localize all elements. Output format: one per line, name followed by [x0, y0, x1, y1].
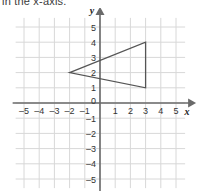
- worksheet-figure: in the x-axis. –5–4–3–2–11234554321–1–2–…: [0, 0, 205, 195]
- y-tick-label: 3: [91, 53, 96, 63]
- x-tick-label: –2: [65, 106, 75, 116]
- x-tick-label: 3: [143, 106, 148, 116]
- coordinate-plane-svg: –5–4–3–2–11234554321–1–2–3–4–50 xy: [0, 8, 205, 195]
- x-tick-label: –3: [49, 106, 59, 116]
- x-tick-label: 4: [158, 106, 163, 116]
- x-tick-label: –5: [19, 106, 29, 116]
- y-tick-label: 4: [91, 38, 96, 48]
- plot-background: [0, 8, 205, 195]
- x-tick-label: 1: [113, 106, 118, 116]
- y-axis-label: y: [89, 8, 95, 16]
- y-tick-label: 2: [91, 68, 96, 78]
- x-tick-label: 5: [173, 106, 178, 116]
- x-tick-label: –4: [34, 106, 44, 116]
- y-tick-label: –5: [86, 175, 96, 185]
- y-tick-label: –2: [86, 129, 96, 139]
- y-tick-label: –4: [86, 159, 96, 169]
- y-tick-label: –1: [86, 114, 96, 124]
- y-tick-label: –3: [86, 144, 96, 154]
- x-axis-label: x: [184, 106, 190, 117]
- y-tick-label: 5: [91, 23, 96, 33]
- coordinate-plane: –5–4–3–2–11234554321–1–2–3–4–50 xy: [0, 8, 205, 195]
- origin-label: 0: [91, 96, 96, 106]
- x-tick-label: 2: [128, 106, 133, 116]
- header-text: in the x-axis.: [2, 0, 202, 7]
- y-tick-label: 1: [91, 83, 96, 93]
